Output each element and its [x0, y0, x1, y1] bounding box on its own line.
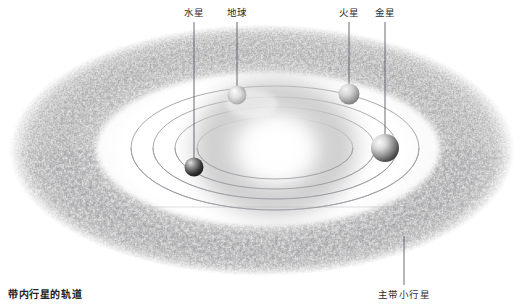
label-mars: 火星 [339, 7, 360, 18]
planet-venus [371, 134, 399, 162]
label-venus: 金星 [375, 7, 396, 18]
diagram-canvas: 水星 地球 火星 金星 带内行星的轨道 主带小行星 [0, 0, 525, 306]
sun-glare-over-earth [226, 90, 278, 118]
label-mercury: 水星 [184, 7, 205, 18]
planet-mars [339, 84, 360, 105]
label-inner-planet-orbits: 带内行星的轨道 [8, 289, 82, 300]
solar-system-illustration [0, 0, 525, 306]
label-earth: 地球 [227, 7, 248, 18]
label-main-belt-asteroids: 主带小行星 [378, 289, 430, 300]
planet-mercury [185, 158, 204, 177]
